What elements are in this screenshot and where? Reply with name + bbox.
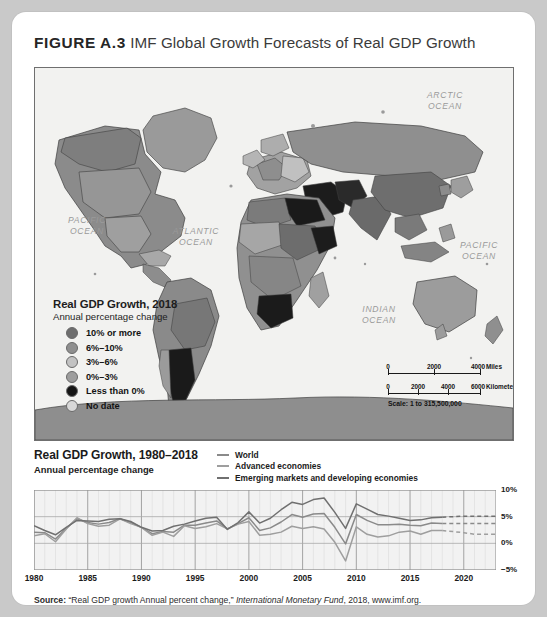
y-axis-tick-label: 5% xyxy=(501,512,513,521)
chart-title: Real GDP Growth, 1980–2018 xyxy=(34,448,198,462)
source-label: Source: xyxy=(34,595,66,605)
x-axis-tick-label: 2005 xyxy=(293,573,312,583)
legend-swatch-icon xyxy=(66,342,78,354)
figure-title-text: IMF Global Growth Forecasts of Real GDP … xyxy=(126,34,476,51)
region-korea xyxy=(439,184,451,196)
y-axis-tick-label: −5% xyxy=(501,565,517,574)
scale-miles-row: 0 2000 4000 Miles xyxy=(382,364,502,379)
figure-number: FIGURE A.3 xyxy=(34,34,126,51)
source-quote: “Real GDP growth Annual percent change,” xyxy=(66,595,236,605)
legend-item-label: No date xyxy=(86,401,120,411)
chart-legend-label: Emerging markets and developing economie… xyxy=(235,473,418,483)
legend-item: 6%–10% xyxy=(53,341,223,356)
x-axis-tick-label: 1995 xyxy=(186,573,205,583)
legend-line-icon xyxy=(217,477,229,479)
scale-km-row: 0 2000 4000 6000 Kilometers xyxy=(382,384,502,399)
scale-km-tick: 6000 xyxy=(471,383,485,390)
scale-miles-unit: Miles xyxy=(486,363,502,370)
x-axis-tick-label: 2020 xyxy=(454,573,473,583)
map-scale-bar: 0 2000 4000 Miles 0 2000 4000 6000 Kilom… xyxy=(382,364,502,399)
chart-legend-item: Advanced economies xyxy=(217,461,418,473)
x-axis-tick-label: 2010 xyxy=(347,573,366,583)
scale-km-unit: Kilometers xyxy=(486,383,514,390)
chart-legend-item: Emerging markets and developing economie… xyxy=(217,472,418,484)
map-legend-subtitle: Annual percentage change xyxy=(53,311,223,322)
x-axis-tick-label: 2015 xyxy=(401,573,420,583)
ocean-label-indian: INDIAN OCEAN xyxy=(347,304,411,325)
legend-item-label: 3%–6% xyxy=(86,357,118,367)
legend-item: Less than 0% xyxy=(53,384,223,399)
legend-swatch-icon xyxy=(66,371,78,383)
legend-swatch-icon xyxy=(66,327,78,339)
source-note: Source: “Real GDP growth Annual percent … xyxy=(34,595,524,605)
line-chart xyxy=(34,490,496,570)
x-axis-tick-label: 2000 xyxy=(240,573,259,583)
legend-line-icon xyxy=(217,454,229,456)
ocean-label-pacific-east: PACIFIC OCEAN xyxy=(449,240,509,261)
ocean-label-pacific-west: PACIFIC OCEAN xyxy=(55,215,119,236)
x-axis-tick-label: 1980 xyxy=(25,573,44,583)
map-legend-items: 10% or more 6%–10% 3%–6% 0%–3% Less than… xyxy=(53,326,223,413)
legend-item-label: Less than 0% xyxy=(86,386,145,396)
legend-swatch-icon xyxy=(66,400,78,412)
legend-item: 0%–3% xyxy=(53,370,223,385)
source-tail: , 2018, www.imf.org. xyxy=(343,595,421,605)
legend-swatch-icon xyxy=(66,356,78,368)
figure-card: FIGURE A.3 IMF Global Growth Forecasts o… xyxy=(12,12,535,605)
legend-item: No date xyxy=(53,399,223,414)
map-legend-title: Real GDP Growth, 2018 xyxy=(53,298,223,310)
x-axis-tick-label: 1990 xyxy=(132,573,151,583)
ocean-label-atlantic: ATLANTIC OCEAN xyxy=(161,226,231,247)
scale-miles-tick: 4000 xyxy=(471,363,485,370)
legend-swatch-icon xyxy=(66,385,78,397)
legend-item-label: 10% or more xyxy=(86,328,141,338)
ocean-label-arctic: ARCTIC OCEAN xyxy=(413,90,477,111)
source-publisher: International Monetary Fund xyxy=(236,595,344,605)
line-chart-graphic xyxy=(34,490,496,570)
x-axis-tick-label: 1985 xyxy=(78,573,97,583)
chart-header: Real GDP Growth, 1980–2018 Annual percen… xyxy=(34,448,198,475)
chart-legend-label: Advanced economies xyxy=(235,461,321,471)
chart-legend: World Advanced economies Emerging market… xyxy=(217,449,418,484)
chart-subtitle: Annual percentage change xyxy=(34,464,198,475)
map-legend: Real GDP Growth, 2018 Annual percentage … xyxy=(53,298,223,413)
legend-item: 3%–6% xyxy=(53,355,223,370)
figure-title: FIGURE A.3 IMF Global Growth Forecasts o… xyxy=(34,34,514,52)
legend-item: 10% or more xyxy=(53,326,223,341)
legend-item-label: 0%–3% xyxy=(86,372,118,382)
world-map: PACIFIC OCEAN ATLANTIC OCEAN ARCTIC OCEA… xyxy=(34,67,514,441)
chart-legend-item: World xyxy=(217,449,418,461)
scale-ratio: Scale: 1 to 315,500,000 xyxy=(388,400,462,407)
legend-line-icon xyxy=(217,465,229,467)
legend-item-label: 6%–10% xyxy=(86,343,123,353)
y-axis-tick-label: 0% xyxy=(501,538,513,547)
y-axis-tick-label: 10% xyxy=(501,485,517,494)
chart-legend-label: World xyxy=(235,450,259,460)
